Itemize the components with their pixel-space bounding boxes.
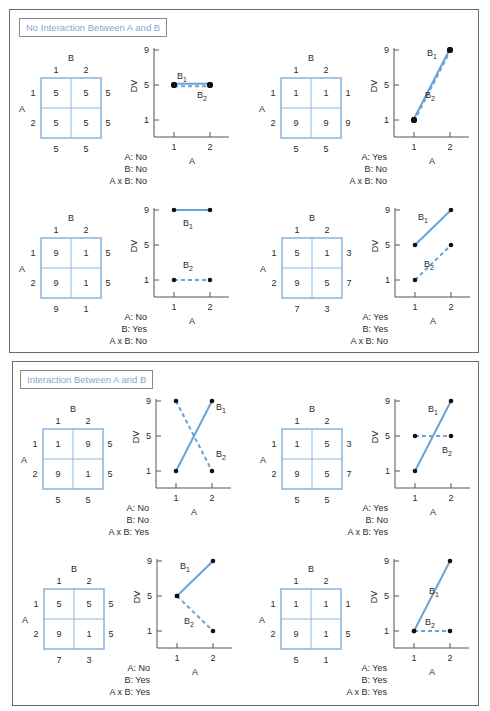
row-marginal-mean: 5 [107, 469, 112, 479]
data-point [448, 629, 453, 634]
row-marginal-mean: 3 [346, 439, 351, 449]
y-tick-label: 9 [385, 205, 390, 215]
data-point [210, 399, 215, 404]
factor-a-label: A [22, 615, 28, 625]
effect-axb: A x B: No [109, 335, 147, 347]
x-tick-label: 2 [207, 142, 212, 152]
effect-a: A: Yes [346, 662, 387, 674]
example-cell: B12A1211991955B1B295112DVAA: YesB: NoA x… [250, 40, 480, 200]
effect-axb: A x B: Yes [347, 526, 388, 538]
column-label: 2 [324, 416, 329, 426]
y-tick-label: 9 [146, 396, 151, 406]
x-tick-label: 1 [171, 302, 176, 312]
row-marginal-mean: 7 [346, 278, 351, 288]
cell-mean: 1 [293, 599, 298, 609]
column-label: 1 [53, 225, 58, 235]
line-chart: B1B2 [154, 208, 229, 297]
column-marginal-mean: 5 [85, 495, 90, 505]
effect-a: A: No [108, 502, 149, 514]
effects-summary: A: YesB: YesA x B: Yes [346, 662, 387, 698]
x-tick-label: 1 [411, 653, 416, 663]
factor-a-label: A [259, 615, 265, 625]
y-tick-label: 9 [144, 205, 149, 215]
row-marginal-mean: 5 [105, 278, 110, 288]
data-point [413, 278, 418, 283]
cell-mean: 9 [323, 118, 328, 128]
series-label-b2: B2 [425, 617, 435, 629]
column-label: 1 [56, 576, 61, 586]
series-label-b1: B1 [216, 402, 226, 414]
y-axis-label: DV [131, 431, 141, 444]
effects-summary: A: NoB: YesA x B: Yes [109, 662, 150, 698]
row-marginal-mean: 3 [346, 248, 351, 258]
cell-means-matrix [44, 589, 104, 649]
column-marginal-mean: 1 [323, 655, 328, 665]
cell-means-matrix [282, 429, 342, 489]
x-tick-label: 2 [448, 493, 453, 503]
row-marginal-mean: 5 [107, 439, 112, 449]
data-point [208, 208, 213, 213]
factor-b-label: B [70, 404, 76, 414]
y-axis-label: DV [370, 240, 380, 253]
cell-mean: 5 [86, 599, 91, 609]
effect-b: B: Yes [109, 674, 150, 686]
row-label: 2 [271, 278, 276, 288]
cell-mean: 5 [324, 439, 329, 449]
y-tick-label: 5 [384, 80, 389, 90]
cell-mean: 1 [85, 469, 90, 479]
cell-means-matrix [41, 238, 101, 298]
y-tick-label: 5 [144, 80, 149, 90]
example-cell: B12A1215953755B1B295112DVAA: YesB: NoA x… [251, 391, 481, 551]
row-label: 2 [32, 469, 37, 479]
effect-axb: A x B: No [350, 335, 388, 347]
example-cell: B12A1211911551B1B295112DVAA: YesB: YesA … [250, 551, 480, 711]
effect-b: B: No [349, 163, 387, 175]
row-marginal-mean: 1 [345, 599, 350, 609]
row-marginal-mean: 5 [108, 629, 113, 639]
x-tick-label: 2 [447, 142, 452, 152]
effect-b: B: No [109, 163, 147, 175]
factor-b-label: B [71, 564, 77, 574]
data-point [412, 629, 417, 634]
series-label-b1: B1 [180, 561, 190, 573]
x-tick-label: 1 [171, 142, 176, 152]
data-point [172, 208, 177, 213]
row-marginal-mean: 5 [108, 599, 113, 609]
cell-mean: 5 [83, 88, 88, 98]
data-point [449, 208, 454, 213]
line-b2 [415, 245, 451, 280]
column-label: 1 [293, 576, 298, 586]
x-tick-label: 2 [207, 302, 212, 312]
y-tick-label: 5 [385, 240, 390, 250]
cell-mean: 1 [324, 248, 329, 258]
factor-b-label: B [308, 564, 314, 574]
data-point [174, 469, 179, 474]
series-label-b2: B2 [216, 449, 226, 461]
data-point [207, 82, 213, 88]
line-b1 [414, 561, 450, 631]
column-label: 2 [83, 225, 88, 235]
y-tick-label: 1 [146, 466, 151, 476]
column-marginal-mean: 5 [55, 495, 60, 505]
effect-axb: A x B: Yes [109, 686, 150, 698]
column-label: 2 [324, 225, 329, 235]
y-tick-label: 9 [147, 556, 152, 566]
column-marginal-mean: 3 [324, 304, 329, 314]
effect-axb: A x B: Yes [108, 526, 149, 538]
y-tick-label: 1 [147, 626, 152, 636]
cell-mean: 1 [323, 629, 328, 639]
factor-b-label: B [68, 53, 74, 63]
column-marginal-mean: 5 [294, 495, 299, 505]
example-cell: B12A1255915573B1B295112DVAA: NoB: YesA x… [13, 551, 243, 711]
y-tick-label: 5 [146, 431, 151, 441]
column-marginal-mean: 5 [53, 144, 58, 154]
cell-mean: 9 [293, 629, 298, 639]
column-marginal-mean: 7 [294, 304, 299, 314]
cell-mean: 1 [294, 439, 299, 449]
data-point [175, 594, 180, 599]
series-label-b2: B2 [442, 445, 452, 457]
cell-mean: 1 [323, 88, 328, 98]
y-tick-label: 5 [147, 591, 152, 601]
row-marginal-mean: 7 [346, 469, 351, 479]
factor-b-label: B [68, 213, 74, 223]
